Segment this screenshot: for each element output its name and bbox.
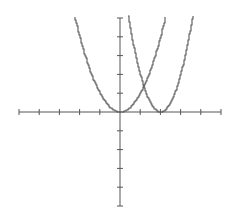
chart-plot-area — [0, 0, 243, 216]
curves — [75, 16, 193, 112]
